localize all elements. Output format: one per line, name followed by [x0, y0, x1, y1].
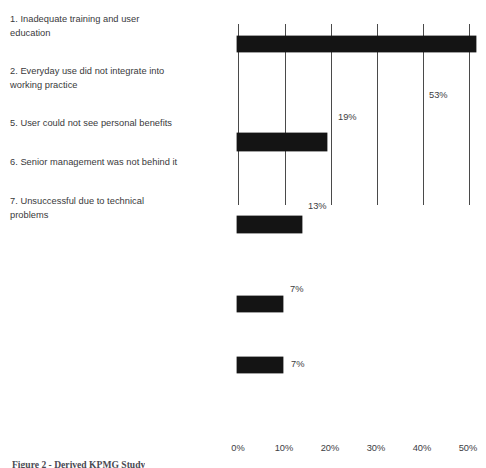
- bar-chart-plot-area: 53% 19% 13% 7% 7% 0% 10% 20% 30% 40% 50%: [0, 0, 486, 468]
- bar-reason-2: [237, 133, 327, 151]
- xtick-label-40: 40%: [405, 443, 439, 454]
- xtick-label-50: 50%: [451, 443, 485, 454]
- bar-reason-7: [237, 357, 283, 373]
- xtick-label-0: 0%: [221, 443, 255, 454]
- figure-caption: Figure 2 - Derived KPMG Study: [12, 459, 145, 468]
- bar-value-label-5: 13%: [308, 201, 327, 212]
- bar-value-label-1: 53%: [429, 90, 448, 101]
- bar-value-label-2: 19%: [338, 112, 357, 123]
- bar-reason-6: [237, 296, 283, 312]
- bar-value-label-6: 7%: [290, 284, 303, 295]
- figure-page: 1. Inadequate training and user educatio…: [0, 0, 486, 468]
- xtick-label-10: 10%: [267, 443, 301, 454]
- bar-value-label-7: 7%: [291, 359, 304, 370]
- bar-reason-1: [237, 36, 476, 52]
- bar-reason-5: [237, 216, 302, 233]
- xtick-label-20: 20%: [313, 443, 347, 454]
- xtick-label-30: 30%: [359, 443, 393, 454]
